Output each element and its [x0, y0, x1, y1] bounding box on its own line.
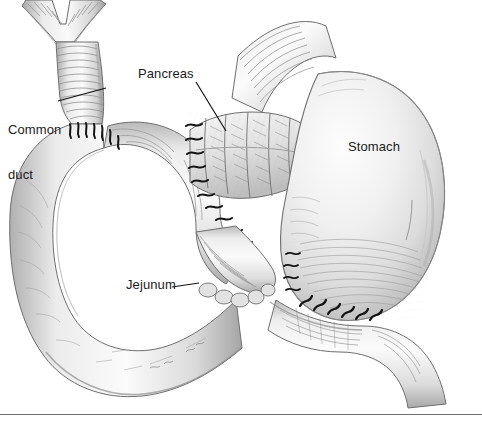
stomach	[281, 72, 445, 321]
anatomical-figure: Common duct Pancreas Stomach Jejunum	[0, 0, 482, 422]
hepatic-duct-bifurcation	[22, 0, 106, 45]
common-bile-duct	[56, 42, 104, 124]
label-jejunum: Jejunum	[126, 277, 176, 292]
bottom-divider-rule	[0, 414, 482, 415]
jejunum-leader	[172, 283, 199, 287]
label-common-duct-line2: duct	[8, 167, 61, 182]
illustration-canvas	[0, 0, 482, 422]
label-common-duct: Common duct	[8, 92, 61, 212]
label-pancreas: Pancreas	[138, 66, 194, 81]
label-stomach: Stomach	[348, 139, 400, 154]
label-common-duct-line1: Common	[8, 122, 61, 137]
